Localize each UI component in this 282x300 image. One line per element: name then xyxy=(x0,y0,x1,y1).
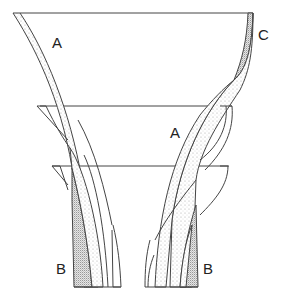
label-a-left: A xyxy=(52,34,62,51)
left-inner-sheaths xyxy=(37,106,121,287)
label-b-left: B xyxy=(56,260,66,277)
label-b-right: B xyxy=(203,260,213,277)
label-a-right: A xyxy=(170,124,180,141)
sheath-diagram: A C A B B xyxy=(0,0,282,300)
label-c: C xyxy=(258,26,269,43)
